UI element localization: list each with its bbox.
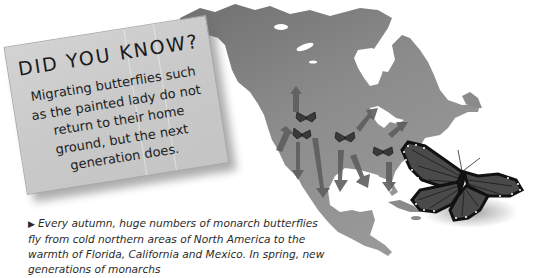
card-text: Migrating butterflies such as the painte… bbox=[21, 61, 216, 181]
did-you-know-card: DID YOU KNOW? Migrating butterflies such… bbox=[4, 15, 230, 195]
map-caption: ▶Every autumn, huge numbers of monarch b… bbox=[28, 216, 328, 277]
caption-text: Every autumn, huge numbers of monarch bu… bbox=[28, 217, 324, 275]
right-triangle-bullet-icon: ▶ bbox=[28, 219, 35, 229]
card-body-panel: DID YOU KNOW? Migrating butterflies such… bbox=[4, 15, 230, 195]
island bbox=[411, 216, 421, 220]
lake bbox=[309, 61, 317, 64]
lake bbox=[274, 24, 288, 30]
